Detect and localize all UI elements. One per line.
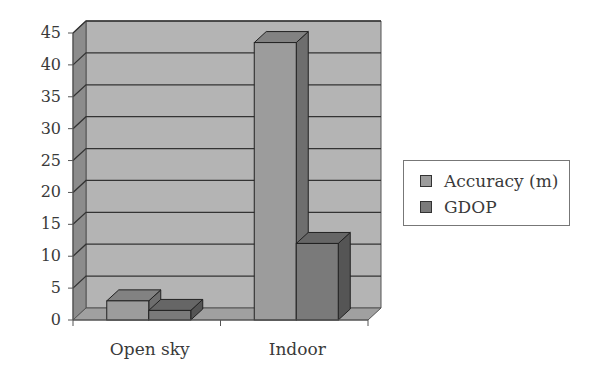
legend-item-gdop: GDOP (420, 196, 497, 218)
legend-swatch-accuracy (420, 175, 432, 187)
y-tick-label: 35 (41, 87, 61, 106)
x-category-label: Open sky (110, 339, 190, 359)
y-tick-label: 15 (41, 214, 61, 233)
legend: Accuracy (m) GDOP (403, 160, 570, 226)
y-axis-ticks: 051015202530354045 (41, 23, 73, 329)
y-tick-label: 20 (41, 182, 61, 201)
x-axis-labels: Open skyIndoor (110, 339, 327, 359)
legend-label-accuracy: Accuracy (m) (444, 171, 558, 191)
legend-swatch-gdop (420, 201, 432, 213)
y-tick-label: 10 (41, 246, 61, 265)
y-tick-label: 25 (41, 151, 61, 170)
legend-item-accuracy: Accuracy (m) (420, 170, 558, 192)
x-category-label: Indoor (269, 339, 327, 359)
y-tick-label: 0 (51, 310, 61, 329)
bar-open-sky-gdop (149, 299, 203, 320)
bar-indoor-gdop (296, 232, 350, 320)
y-tick-label: 30 (41, 119, 61, 138)
side-wall (73, 21, 86, 320)
y-tick-label: 40 (41, 55, 61, 74)
y-tick-label: 5 (51, 278, 61, 297)
y-tick-label: 45 (41, 23, 61, 42)
legend-label-gdop: GDOP (444, 197, 497, 217)
